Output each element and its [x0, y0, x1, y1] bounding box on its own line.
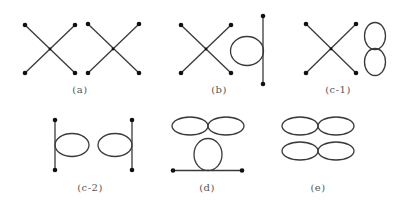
panel-e-diagram: [282, 117, 354, 160]
panel-c1-diagram: [304, 22, 386, 76]
figure-eight-horizontal: [172, 117, 244, 135]
feynman-diagram-figure: [0, 0, 404, 206]
panel-c2-diagram: [53, 118, 135, 173]
cross-vertex: [179, 23, 234, 76]
figure-eight-vacuum: [365, 23, 386, 76]
panel-b-diagram: [179, 14, 266, 87]
figure-eight-top: [282, 117, 354, 135]
cross-vertex-2: [86, 22, 142, 76]
tadpole-on-line: [171, 139, 245, 173]
panel-b-label: (b): [211, 84, 227, 95]
panel-a-label: (a): [72, 84, 87, 95]
tadpole-loop: [231, 14, 266, 87]
panel-c2-label: (c-2): [77, 182, 103, 193]
panel-e-label: (e): [310, 182, 325, 193]
tadpole-right: [98, 118, 134, 173]
panel-a-diagram: [23, 22, 142, 76]
cross-vertex: [304, 22, 359, 76]
figure-eight-bottom: [282, 142, 354, 160]
panel-d-label: (d): [199, 182, 215, 193]
tadpole-left: [53, 118, 89, 173]
panel-d-diagram: [171, 117, 245, 173]
cross-vertex-1: [23, 23, 78, 76]
panel-c1-label: (c-1): [325, 84, 351, 95]
